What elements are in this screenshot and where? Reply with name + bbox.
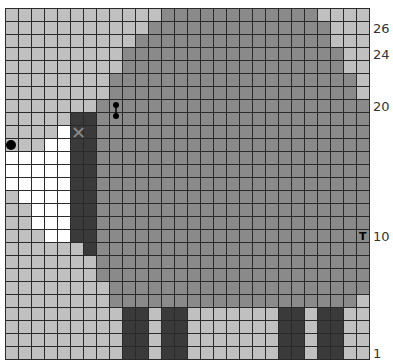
chart-cell-light-gray bbox=[32, 48, 45, 61]
chart-cell-medium-gray bbox=[149, 152, 162, 165]
chart-cell-light-gray bbox=[6, 126, 19, 139]
chart-cell-medium-gray bbox=[240, 61, 253, 74]
chart-cell-medium-gray bbox=[214, 100, 227, 113]
chart-cell-medium-gray bbox=[344, 165, 357, 178]
chart-cell-light-gray bbox=[58, 74, 71, 87]
chart-cell-medium-gray bbox=[331, 191, 344, 204]
chart-cell-light-gray bbox=[201, 321, 214, 334]
chart-cell-dark-gray bbox=[84, 178, 97, 191]
chart-cell-dark-gray bbox=[318, 308, 331, 321]
chart-cell-light-gray bbox=[97, 48, 110, 61]
chart-cell-light-gray bbox=[58, 22, 71, 35]
chart-cell-medium-gray bbox=[110, 87, 123, 100]
chart-cell-medium-gray bbox=[227, 230, 240, 243]
chart-cell-white bbox=[6, 178, 19, 191]
chart-cell-medium-gray bbox=[227, 243, 240, 256]
chart-cell-medium-gray bbox=[214, 191, 227, 204]
chart-cell-medium-gray bbox=[123, 74, 136, 87]
chart-cell-light-gray bbox=[6, 22, 19, 35]
chart-cell-light-gray bbox=[84, 61, 97, 74]
chart-cell-medium-gray bbox=[136, 256, 149, 269]
chart-cell-medium-gray bbox=[175, 139, 188, 152]
chart-cell-medium-gray bbox=[279, 74, 292, 87]
chart-cell-light-gray bbox=[32, 308, 45, 321]
chart-cell-medium-gray bbox=[292, 204, 305, 217]
chart-cell-medium-gray bbox=[149, 165, 162, 178]
chart-cell-medium-gray bbox=[227, 35, 240, 48]
chart-cell-medium-gray bbox=[344, 113, 357, 126]
chart-cell-medium-gray bbox=[227, 256, 240, 269]
chart-cell-medium-gray bbox=[123, 165, 136, 178]
chart-cell-medium-gray bbox=[123, 113, 136, 126]
chart-cell-light-gray bbox=[84, 295, 97, 308]
chart-cell-medium-gray bbox=[175, 152, 188, 165]
chart-cell-medium-gray bbox=[149, 230, 162, 243]
chart-cell-light-gray bbox=[6, 321, 19, 334]
chart-cell-medium-gray bbox=[175, 87, 188, 100]
chart-cell-white bbox=[45, 152, 58, 165]
chart-cell-dark-gray bbox=[136, 308, 149, 321]
chart-cell-medium-gray bbox=[266, 87, 279, 100]
chart-cell-medium-gray bbox=[331, 178, 344, 191]
chart-cell-medium-gray bbox=[110, 100, 123, 113]
chart-cell-white bbox=[45, 165, 58, 178]
chart-cell-light-gray bbox=[32, 113, 45, 126]
chart-cell-light-gray bbox=[6, 139, 19, 152]
chart-cell-light-gray bbox=[71, 295, 84, 308]
chart-cell-white bbox=[19, 152, 32, 165]
chart-cell-light-gray bbox=[71, 74, 84, 87]
chart-cell-medium-gray bbox=[305, 87, 318, 100]
chart-cell-medium-gray bbox=[240, 178, 253, 191]
chart-cell-light-gray bbox=[253, 308, 266, 321]
chart-cell-light-gray bbox=[19, 282, 32, 295]
chart-cell-medium-gray bbox=[97, 243, 110, 256]
chart-cell-white bbox=[58, 191, 71, 204]
chart-cell-medium-gray bbox=[188, 282, 201, 295]
chart-cell-medium-gray bbox=[305, 204, 318, 217]
row-label: 24 bbox=[373, 48, 390, 61]
chart-cell-medium-gray bbox=[149, 256, 162, 269]
chart-cell-light-gray bbox=[357, 61, 370, 74]
chart-cell-medium-gray bbox=[227, 9, 240, 22]
chart-cell-light-gray bbox=[84, 100, 97, 113]
chart-cell-light-gray bbox=[227, 321, 240, 334]
chart-cell-light-gray bbox=[149, 321, 162, 334]
chart-cell-light-gray bbox=[45, 295, 58, 308]
chart-cell-light-gray bbox=[84, 256, 97, 269]
chart-cell-medium-gray bbox=[97, 217, 110, 230]
chart-cell-light-gray bbox=[97, 347, 110, 360]
chart-cell-medium-gray bbox=[266, 100, 279, 113]
chart-cell-medium-gray bbox=[279, 139, 292, 152]
chart-cell-dark-gray bbox=[123, 308, 136, 321]
chart-cell-light-gray bbox=[19, 22, 32, 35]
chart-cell-medium-gray bbox=[149, 87, 162, 100]
chart-cell-light-gray bbox=[331, 35, 344, 48]
chart-cell-light-gray bbox=[266, 308, 279, 321]
chart-cell-medium-gray bbox=[175, 204, 188, 217]
chart-cell-dark-gray bbox=[331, 308, 344, 321]
chart-cell-medium-gray bbox=[110, 139, 123, 152]
chart-cell-medium-gray bbox=[318, 152, 331, 165]
chart-cell-medium-gray bbox=[331, 269, 344, 282]
chart-cell-light-gray bbox=[305, 308, 318, 321]
chart-cell-medium-gray bbox=[136, 217, 149, 230]
chart-cell-medium-gray bbox=[227, 282, 240, 295]
chart-cell-light-gray bbox=[45, 308, 58, 321]
chart-cell-medium-gray bbox=[292, 152, 305, 165]
chart-cell-medium-gray bbox=[97, 230, 110, 243]
chart-cell-medium-gray bbox=[266, 217, 279, 230]
chart-cell-white bbox=[58, 178, 71, 191]
chart-cell-light-gray bbox=[110, 347, 123, 360]
chart-cell-dark-gray bbox=[292, 334, 305, 347]
chart-cell-medium-gray bbox=[344, 217, 357, 230]
chart-cell-medium-gray bbox=[344, 191, 357, 204]
chart-cell-medium-gray bbox=[162, 269, 175, 282]
chart-cell-medium-gray bbox=[292, 282, 305, 295]
chart-cell-light-gray bbox=[84, 22, 97, 35]
chart-cell-medium-gray bbox=[331, 295, 344, 308]
chart-cell-dark-gray bbox=[279, 308, 292, 321]
chart-cell-dark-gray bbox=[175, 308, 188, 321]
chart-cell-light-gray bbox=[84, 282, 97, 295]
chart-cell-medium-gray bbox=[266, 22, 279, 35]
chart-cell-medium-gray bbox=[175, 126, 188, 139]
